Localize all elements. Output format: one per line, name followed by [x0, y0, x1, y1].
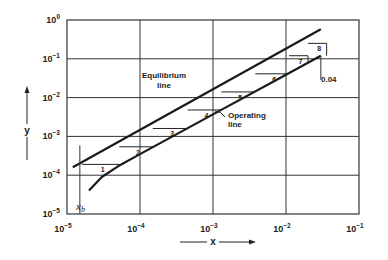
tick-exponent: −3: [53, 129, 61, 136]
tick-exponent: −1: [356, 222, 364, 229]
y-tick-label: 10−2: [43, 91, 61, 103]
tick-base: 10: [43, 170, 53, 180]
x-axis-title: x: [210, 236, 216, 247]
stage-label: 5: [238, 94, 242, 101]
stage-label: 3: [170, 130, 174, 137]
tick-base: 10: [127, 224, 137, 234]
x-axis-label: x: [180, 236, 256, 247]
grid: [67, 20, 359, 214]
x-tick-label: 10−3: [200, 222, 218, 234]
tick-base: 10: [46, 15, 56, 25]
operating-label-line1: Operating: [228, 111, 266, 120]
stage-label: 7: [299, 58, 303, 65]
tick-exponent: −4: [53, 168, 61, 175]
tick-exponent: −3: [210, 222, 218, 229]
tick-exponent: −1: [53, 52, 61, 59]
tick-base: 10: [43, 131, 53, 141]
y-tick-label: 10−1: [43, 52, 61, 64]
stages-layer: 12345678: [82, 43, 327, 173]
tick-exponent: −5: [64, 222, 72, 229]
tick-base: 10: [43, 54, 53, 64]
operating-label-line2: line: [228, 120, 242, 129]
y-axis-title: y: [24, 125, 30, 136]
xb-label: xb: [75, 200, 85, 214]
y-axis-label: y: [24, 86, 30, 160]
xb-label-sub: b: [81, 205, 85, 214]
tick-base: 10: [54, 224, 64, 234]
tick-base: 10: [200, 224, 210, 234]
y-tick-label: 10−5: [43, 207, 61, 219]
y-tick-label: 100: [46, 13, 60, 25]
x-tick-label: 10−2: [273, 222, 291, 234]
stage-label: 6: [272, 76, 276, 83]
equilibrium-label-line2: line: [157, 81, 171, 90]
y-axis-arrowhead-icon: [25, 86, 30, 93]
x-tick-label: 10−4: [127, 222, 145, 234]
x-tick-label: 10−1: [346, 222, 364, 234]
stage-label: 4: [205, 112, 209, 119]
tick-base: 10: [43, 93, 53, 103]
x-axis-arrowhead-icon: [249, 240, 256, 245]
tick-base: 10: [43, 209, 53, 219]
tick-exponent: −2: [53, 91, 61, 98]
tick-exponent: −5: [53, 207, 61, 214]
x-tick-label: 10−5: [54, 222, 72, 234]
tick-base: 10: [273, 224, 283, 234]
tick-exponent: −4: [137, 222, 145, 229]
equilibrium-line: [73, 29, 321, 167]
stage-label: 2: [136, 149, 140, 156]
y-tick-labels: 10010−110−210−310−410−5: [43, 13, 61, 219]
y-tick-label: 10−3: [43, 129, 61, 141]
stage-label: 8: [317, 45, 321, 52]
series-layer: [73, 29, 321, 214]
x-tick-labels: 10−510−410−310−210−1: [54, 222, 364, 234]
x-top-label: 0.04: [321, 75, 337, 84]
tick-exponent: 0: [56, 13, 60, 20]
tick-exponent: −2: [283, 222, 291, 229]
stage-label: 1: [101, 166, 105, 173]
y-tick-label: 10−4: [43, 168, 61, 180]
mccabe-thiele-chart: 10−510−410−310−210−1 10010−110−210−310−4…: [0, 0, 388, 260]
equilibrium-label-line1: Equilibrium: [142, 71, 186, 80]
tick-base: 10: [346, 224, 356, 234]
